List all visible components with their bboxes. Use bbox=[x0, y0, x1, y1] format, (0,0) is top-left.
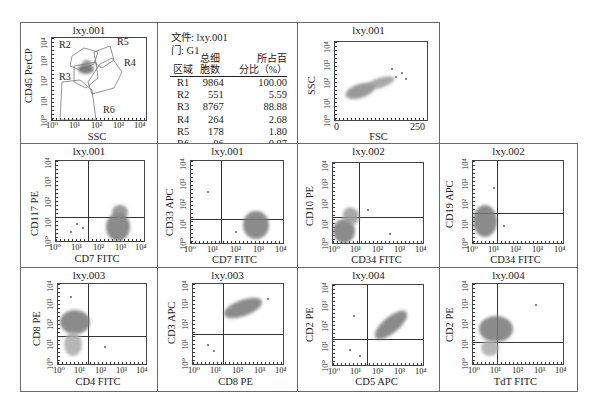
tick-label: 10⁴ bbox=[322, 42, 332, 53]
tick-label: 10² bbox=[320, 321, 330, 332]
panel-title: lxy.001 bbox=[21, 145, 157, 157]
region-stats-table: 区域 总细胞数 所占百分比（%） R19864100.00 R25515.59 … bbox=[170, 53, 287, 150]
tick-label: 10³ bbox=[178, 179, 188, 190]
tick-label: 10⁰ bbox=[53, 365, 65, 375]
panel-title: lxy.001 bbox=[158, 145, 297, 157]
tick-label: 10⁰ bbox=[328, 244, 340, 254]
tick-label: 10¹ bbox=[350, 244, 361, 254]
tick-label: 10⁴ bbox=[460, 281, 470, 292]
flow-cytometry-figure: lxy.001 CD45 PerCP R2 R5 R4 R3 R6 10⁰ 10… bbox=[20, 22, 578, 392]
tick-label: 10⁴ bbox=[180, 281, 190, 292]
tick-label: 10³ bbox=[115, 242, 126, 252]
y-axis-label: CD19 APC bbox=[444, 180, 455, 228]
tick-label: 10⁴ bbox=[275, 365, 286, 375]
tick-label: 10¹ bbox=[320, 219, 330, 230]
y-axis-label: CD45 PerCP bbox=[23, 48, 34, 103]
tick-label: 10² bbox=[180, 319, 190, 330]
table-row: R3876788.88 bbox=[170, 101, 287, 113]
tick-label: 10² bbox=[372, 244, 383, 254]
x-axis-label: FSC bbox=[318, 131, 439, 142]
scatter-plot-area bbox=[190, 160, 284, 244]
header-percent: 所占百分比（%） bbox=[224, 53, 287, 77]
panel-cd19-cd34: lxy.002 CD19 APC 10⁰ 10¹ 10² 10³ 10⁴ 10⁰… bbox=[439, 143, 578, 268]
tick-label: 10⁴ bbox=[39, 38, 49, 49]
tick-label: 10⁰ bbox=[466, 244, 478, 254]
x-axis-label: TdT FITC bbox=[454, 376, 577, 387]
tick-label: 10¹ bbox=[210, 365, 221, 375]
panel-cd33-cd7: lxy.001 CD33 APC 10⁰ 10¹ 10² 10³ 10⁴ 10⁰… bbox=[157, 143, 298, 268]
tick-label: 10³ bbox=[320, 179, 330, 190]
tick-label: 10⁴ bbox=[178, 159, 188, 170]
tick-label: 10³ bbox=[460, 299, 470, 310]
tick-label: 10² bbox=[322, 78, 332, 89]
y-axis-label: CD8 PE bbox=[31, 311, 42, 346]
cell-population bbox=[60, 310, 90, 334]
x-axis-label: SSC bbox=[37, 131, 157, 142]
tick-label: 10⁴ bbox=[134, 120, 145, 130]
tick-label: 10¹ bbox=[490, 365, 501, 375]
panel-title: lxy.001 bbox=[298, 24, 439, 36]
tick-label: 10¹ bbox=[460, 339, 470, 350]
tick-label: 10³ bbox=[45, 299, 55, 310]
tick-label: 10² bbox=[320, 199, 330, 210]
quadrant-line-vertical bbox=[88, 161, 89, 241]
scatter-plot-area bbox=[332, 162, 424, 244]
x-axis-label: CD4 FITC bbox=[39, 376, 157, 387]
y-axis-label: CD10 PE bbox=[304, 186, 315, 226]
quadrant-line-vertical bbox=[359, 163, 360, 243]
tick-label: 10³ bbox=[534, 365, 545, 375]
region-label-r2: R2 bbox=[59, 39, 71, 50]
tick-label: 10¹ bbox=[488, 244, 499, 254]
scatter-plot-area bbox=[334, 41, 428, 121]
cell-population bbox=[221, 294, 264, 323]
tick-label: 10⁴ bbox=[555, 365, 566, 375]
y-axis-label: CD117 PE bbox=[29, 191, 40, 236]
scatter-plot-area bbox=[192, 283, 284, 365]
header-region: 区域 bbox=[170, 53, 196, 77]
y-axis-label: CD2 PE bbox=[444, 307, 455, 342]
x-axis-label: CD8 PE bbox=[174, 376, 297, 387]
empty-space bbox=[440, 22, 578, 143]
panel-title: lxy.002 bbox=[298, 145, 439, 157]
x-axis-label: CD7 FITC bbox=[37, 253, 157, 264]
tick-label: 10² bbox=[512, 365, 523, 375]
quadrant-line-vertical bbox=[223, 284, 224, 364]
panel-cd2-tdt: lxy.004 CD2 PE 10⁰ 10¹ 10² 10³ 10⁴ 10⁰ 1… bbox=[439, 267, 578, 392]
tick-label: 10³ bbox=[394, 366, 405, 376]
tick-label: 10³ bbox=[39, 56, 49, 67]
tick-label: 10⁴ bbox=[45, 281, 55, 292]
region-label-r4: R4 bbox=[124, 57, 136, 68]
tick-label: 10³ bbox=[254, 365, 265, 375]
y-axis-label: CD33 APC bbox=[164, 188, 175, 236]
tick-label: 10³ bbox=[116, 365, 127, 375]
scatter-plot-area bbox=[57, 283, 147, 365]
tick-label: 10⁴ bbox=[415, 244, 426, 254]
x-axis-label: CD5 APC bbox=[314, 376, 439, 387]
tick-label: 10³ bbox=[532, 244, 543, 254]
panel-title: lxy.004 bbox=[440, 269, 577, 281]
tick-label: 10³ bbox=[460, 179, 470, 190]
quadrant-line-vertical bbox=[221, 161, 222, 243]
cell-population bbox=[479, 316, 513, 342]
panel-cd117-cd7: lxy.001 CD117 PE 10⁰ 10¹ 10² 10³ 10⁴ 10⁰… bbox=[20, 143, 158, 268]
panel-cd3-cd8: lxy.003 CD3 APC 10⁰ 10¹ 10² 10³ 10⁴ 10⁰ … bbox=[157, 267, 298, 392]
tick-label: 10⁴ bbox=[275, 244, 286, 254]
tick-label: 10² bbox=[232, 365, 243, 375]
tick-label: 10² bbox=[178, 199, 188, 210]
x-axis-label: CD34 FITC bbox=[314, 254, 439, 265]
header-count: 总细胞数 bbox=[196, 53, 224, 77]
panel-ssc-fsc: lxy.001 SSC 10⁰ 10¹ 10² 10³ 10⁴ 0 250 FS… bbox=[297, 22, 440, 144]
region-label-r6: R6 bbox=[103, 104, 115, 115]
tick-label: 10² bbox=[230, 244, 241, 254]
tick-label: 10¹ bbox=[178, 219, 188, 230]
tick-label: 10¹ bbox=[45, 339, 55, 350]
tick-label: 10² bbox=[510, 244, 521, 254]
tick-label: 10⁴ bbox=[320, 161, 330, 172]
panel-region-stats: 文件: lxy.001 门: G1 区域 总细胞数 所占百分比（%） R1986… bbox=[157, 22, 298, 144]
table-row: R51781.80 bbox=[170, 126, 287, 138]
tick-label: 10⁴ bbox=[43, 158, 53, 169]
tick-label: 10² bbox=[460, 319, 470, 330]
table-row: R25515.59 bbox=[170, 89, 287, 101]
tick-label: 10⁰ bbox=[468, 365, 480, 375]
cell-population bbox=[364, 74, 396, 93]
